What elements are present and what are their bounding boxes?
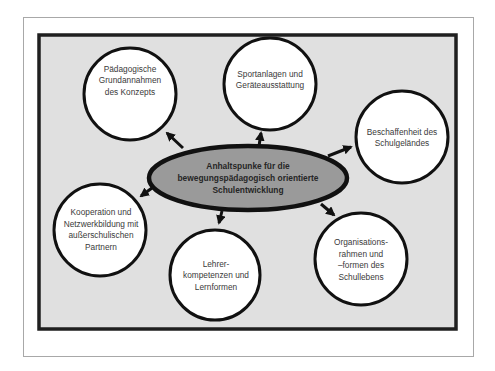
node-label-beschaffenheit: Beschaffenheit des Schulgeländes (356, 124, 448, 152)
node-label-kooperation: Kooperation und Netzwerkbildung mit auße… (55, 205, 147, 255)
center-label: Anhaltspunke für die bewegungspädagogisc… (158, 154, 338, 202)
node-label-organisation: Organisations- rahmen und –formen des Sc… (318, 235, 404, 285)
node-label-paedagogische: Pädagogische Grundannahmen des Konzepts (88, 58, 172, 104)
node-label-lehrer: Lehrer- kompetenzen und Lernformen (172, 256, 260, 296)
node-label-sportanlagen: Sportanlagen und Geräteausstattung (225, 62, 315, 98)
